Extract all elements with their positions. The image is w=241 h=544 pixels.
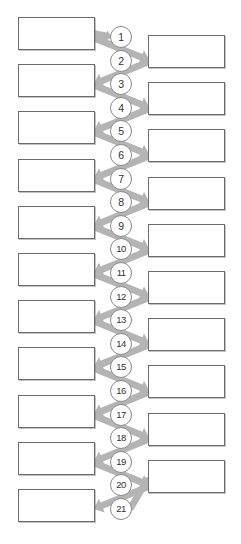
step-circle-19[interactable]: 19 <box>110 451 132 473</box>
diagram-canvas: 123456789101112131415161718192021 <box>0 0 241 544</box>
step-circle-9[interactable]: 9 <box>110 215 132 237</box>
right-box-9[interactable] <box>148 413 225 446</box>
left-box-9[interactable] <box>18 395 95 428</box>
right-box-6[interactable] <box>148 271 225 304</box>
left-box-5[interactable] <box>18 206 95 239</box>
right-box-3[interactable] <box>148 129 225 162</box>
step-circle-17[interactable]: 17 <box>110 404 132 426</box>
left-box-8[interactable] <box>18 347 95 380</box>
right-box-1[interactable] <box>148 35 225 68</box>
step-circle-6[interactable]: 6 <box>110 144 132 166</box>
step-circle-11[interactable]: 11 <box>110 262 132 284</box>
left-box-1[interactable] <box>18 17 95 50</box>
left-box-4[interactable] <box>18 159 95 192</box>
left-box-2[interactable] <box>18 64 95 97</box>
left-box-10[interactable] <box>18 442 95 475</box>
step-circle-16[interactable]: 16 <box>110 380 132 402</box>
left-box-11[interactable] <box>18 489 95 522</box>
right-box-8[interactable] <box>148 365 225 398</box>
step-circle-12[interactable]: 12 <box>110 286 132 308</box>
step-circle-14[interactable]: 14 <box>110 333 132 355</box>
left-box-3[interactable] <box>18 111 95 144</box>
left-box-7[interactable] <box>18 300 95 333</box>
right-box-2[interactable] <box>148 82 225 115</box>
step-circle-21[interactable]: 21 <box>110 498 132 520</box>
right-box-4[interactable] <box>148 177 225 210</box>
right-box-10[interactable] <box>148 460 225 493</box>
left-box-6[interactable] <box>18 253 95 286</box>
step-circle-7[interactable]: 7 <box>110 168 132 190</box>
step-circle-2[interactable]: 2 <box>110 50 132 72</box>
step-circle-1[interactable]: 1 <box>110 26 132 48</box>
step-circle-4[interactable]: 4 <box>110 97 132 119</box>
right-box-5[interactable] <box>148 224 225 257</box>
right-box-7[interactable] <box>148 318 225 351</box>
